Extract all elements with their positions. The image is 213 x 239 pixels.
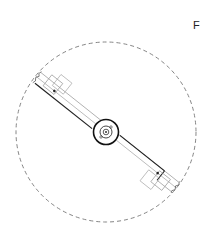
hub-axle-center	[105, 131, 107, 133]
arm-bottom-edge-right	[120, 135, 165, 170]
rotating-arm-diagram	[0, 0, 213, 239]
arm-right-bottom-thin	[157, 180, 172, 192]
arm-right-broken-end	[171, 181, 181, 193]
arm-left-broken-end	[32, 71, 42, 83]
arm-bottom-edge-left	[35, 83, 92, 128]
